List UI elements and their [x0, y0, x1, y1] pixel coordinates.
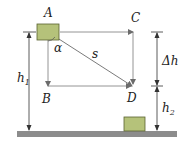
- ground: [17, 131, 177, 137]
- label-a: A: [43, 6, 53, 20]
- block-ground: [124, 117, 145, 131]
- label-delta-h: Δh: [161, 54, 178, 68]
- label-alpha: α: [54, 41, 62, 55]
- label-h1: h1: [17, 71, 30, 87]
- label-d: D: [126, 91, 137, 105]
- label-s: s: [92, 47, 98, 61]
- kinematics-diagram: A C B D s α h1 Δh h2: [0, 0, 190, 147]
- label-c: C: [131, 11, 140, 25]
- block-a: [37, 24, 59, 40]
- label-h2: h2: [162, 101, 175, 117]
- label-b: B: [41, 92, 51, 106]
